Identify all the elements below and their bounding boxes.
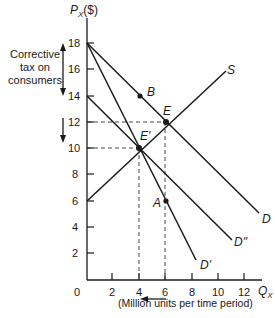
y-axis-title-main: P <box>70 3 78 17</box>
x-tick-2: 2 <box>109 286 115 298</box>
y-tick-2: 2 <box>72 247 78 259</box>
price-down-arrow-icon <box>60 118 66 143</box>
y-tick-10: 10 <box>68 142 80 154</box>
point-B <box>137 93 142 98</box>
x-axis-title-main: Q <box>258 284 267 298</box>
point-E <box>163 119 169 125</box>
label-D-prime: D' <box>200 259 211 271</box>
label-A: A <box>153 197 161 209</box>
x-unit-label: (Million units per time period) <box>118 297 253 309</box>
x-axis-title-sub: X <box>267 291 272 300</box>
label-B: B <box>147 86 155 98</box>
point-E-prime <box>136 145 142 151</box>
y-axis-title: PX($) <box>70 4 98 21</box>
origin-label: 0 <box>74 286 80 298</box>
label-E: E <box>163 105 171 117</box>
y-tick-8: 8 <box>72 168 78 180</box>
demand-curve-D-double-prime <box>87 96 232 240</box>
diagram: PX($) 2 4 6 8 10 12 14 16 18 0 2 4 6 8 1… <box>0 0 275 318</box>
x-axis-title: QX <box>258 285 273 302</box>
label-D: D <box>262 213 271 225</box>
y-tick-12: 12 <box>68 116 80 128</box>
label-S: S <box>227 64 235 76</box>
point-A <box>163 198 168 203</box>
y-tick-16: 16 <box>68 63 80 75</box>
demand-curve-D-prime <box>87 43 196 260</box>
y-axis-title-unit: ($) <box>83 3 98 17</box>
y-tick-4: 4 <box>72 221 78 233</box>
label-D-double-prime: D" <box>234 236 247 248</box>
corrective-tax-note: Corrective tax on consumers <box>2 48 68 87</box>
y-tick-18: 18 <box>68 37 80 49</box>
x-ticks <box>112 273 244 280</box>
label-E-prime: E' <box>140 130 150 142</box>
y-tick-6: 6 <box>72 195 78 207</box>
y-tick-14: 14 <box>68 90 80 102</box>
